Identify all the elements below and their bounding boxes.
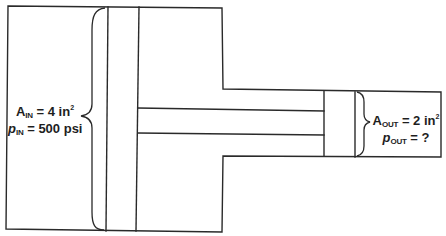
- input-label: AIN = 4 in2 pIN = 500 psi: [8, 101, 82, 139]
- input-area-value: = 4 in: [37, 104, 71, 119]
- input-pressure-text: pIN = 500 psi: [8, 122, 82, 139]
- input-area-text: AIN = 4 in2: [8, 101, 82, 122]
- output-area-text: AOUT = 2 in2: [370, 110, 442, 131]
- output-area-value: = 2 in: [402, 113, 436, 128]
- output-label: AOUT = 2 in2 pOUT = ?: [370, 110, 442, 148]
- output-area-brace: [357, 92, 370, 156]
- input-pressure-subscript: IN: [16, 128, 24, 137]
- large-piston-left-face: [106, 7, 108, 231]
- input-area-subscript: IN: [25, 111, 33, 120]
- input-area-symbol: A: [16, 104, 25, 119]
- input-pressure-symbol: p: [8, 121, 16, 136]
- input-area-brace: [81, 8, 105, 230]
- output-pressure-value: = ?: [410, 130, 429, 145]
- input-pressure-value: = 500 psi: [27, 121, 82, 136]
- large-piston-right-face: [136, 7, 139, 231]
- output-pressure-subscript: OUT: [390, 137, 406, 146]
- input-area-exponent: 2: [70, 104, 74, 111]
- connecting-rod-top: [138, 108, 324, 111]
- output-pressure-text: pOUT = ?: [370, 131, 442, 148]
- output-area-exponent: 2: [436, 113, 440, 120]
- output-area-symbol: A: [373, 113, 382, 128]
- connecting-rod-bottom: [138, 133, 324, 135]
- output-area-subscript: OUT: [382, 120, 398, 129]
